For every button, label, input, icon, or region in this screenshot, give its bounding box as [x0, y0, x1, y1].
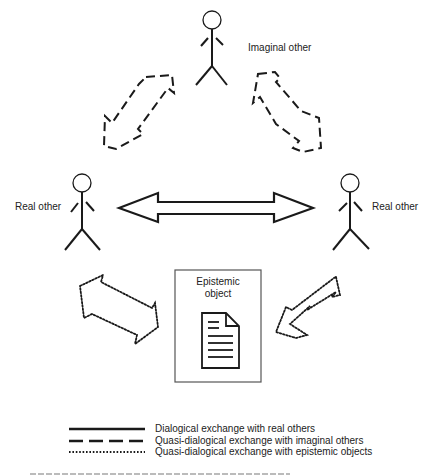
dotted-double-arrow-left	[80, 275, 158, 344]
epistemic-object-label: Epistemic object	[181, 276, 255, 300]
real-other-right-label: Real other	[372, 201, 418, 212]
legend-item-solid: Dialogical exchange with real others	[0, 424, 432, 435]
solid-double-arrow	[119, 193, 313, 222]
imaginal-other-figure	[196, 11, 227, 85]
real-other-left-label: Real other	[15, 201, 61, 212]
dashed-double-arrow-right	[253, 72, 321, 152]
dotted-double-arrow-right	[276, 277, 340, 338]
diagram-canvas	[0, 0, 432, 475]
epistemic-object-label-line2: object	[181, 288, 255, 300]
legend-label: Dialogical exchange with real others	[155, 423, 315, 434]
document-icon	[202, 313, 239, 368]
cut-off-caption	[30, 470, 290, 475]
epistemic-object-label-line1: Epistemic	[181, 276, 255, 288]
real-other-left-figure	[65, 174, 100, 250]
dashed-double-arrow-left	[104, 75, 174, 149]
legend-label: Quasi-dialogical exchange with imaginal …	[155, 435, 363, 446]
imaginal-other-label: Imaginal other	[248, 42, 311, 53]
legend-item-dotted: Quasi-dialogical exchange with epistemic…	[0, 447, 432, 458]
real-other-right-figure	[333, 174, 369, 250]
legend-label: Quasi-dialogical exchange with epistemic…	[155, 446, 372, 457]
